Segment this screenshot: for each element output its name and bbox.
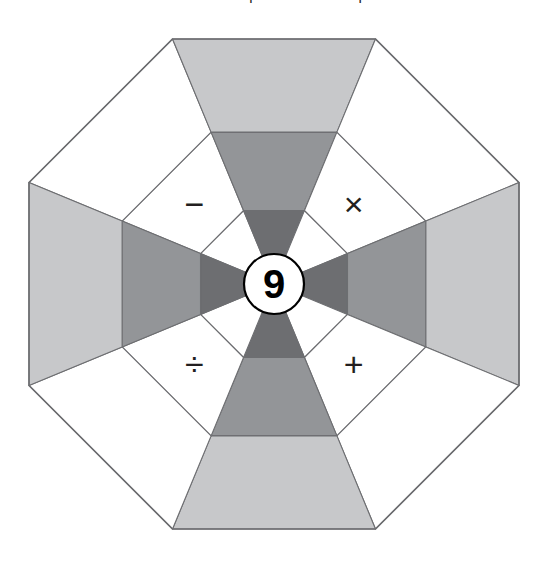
center-hub-value: 9 [263,262,285,306]
center-hub[interactable]: 9 [244,254,304,314]
minus-sign: − [184,185,204,223]
octagon-puzzle-svg: −×+÷ 9 [0,0,547,569]
plus-sign: + [344,345,364,383]
puzzle-diagram: −×+÷ 9 [0,0,547,569]
multiplication-sign: × [344,185,364,223]
division-sign: ÷ [185,345,204,383]
